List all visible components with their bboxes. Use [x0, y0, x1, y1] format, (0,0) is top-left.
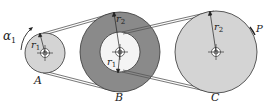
label-a: A: [33, 74, 42, 87]
label-alpha: α1: [3, 29, 16, 45]
pulley-diagram: α1 r1 r2 r1 r2 A B C P: [0, 0, 267, 106]
label-p: P: [255, 23, 263, 34]
label-b: B: [114, 91, 123, 104]
label-c: C: [211, 91, 220, 104]
